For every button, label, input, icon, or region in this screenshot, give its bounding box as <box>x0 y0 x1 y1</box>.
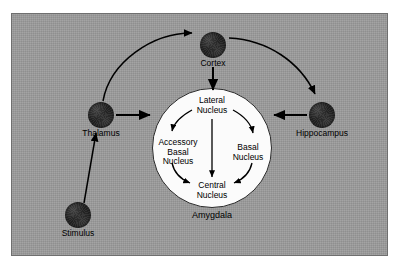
label-basal-nucleus: Basal Nucleus <box>233 143 264 162</box>
label-accessory-basal-nucleus: Accessory Basal Nucleus <box>158 138 197 167</box>
basal-nucleus-line-2: Nucleus <box>233 153 264 163</box>
node-label-cortex: Cortex <box>200 58 225 68</box>
node-label-stimulus: Stimulus <box>62 228 95 238</box>
diagram-canvas: Stimulus Thalamus Cortex Hippocampus Lat… <box>0 0 402 276</box>
label-central-nucleus: Central Nucleus <box>197 181 228 200</box>
node-cortex[interactable] <box>200 32 226 58</box>
accessory-basal-line-3: Nucleus <box>158 157 197 167</box>
central-nucleus-line-2: Nucleus <box>197 191 228 201</box>
node-stimulus[interactable] <box>65 202 91 228</box>
node-thalamus[interactable] <box>88 102 114 128</box>
label-lateral-nucleus: Lateral Nucleus <box>197 96 228 115</box>
node-hippocampus[interactable] <box>309 102 335 128</box>
node-label-hippocampus: Hippocampus <box>296 128 348 138</box>
node-label-thalamus: Thalamus <box>82 128 119 138</box>
lateral-nucleus-line-2: Nucleus <box>197 106 228 116</box>
label-amygdala: Amygdala <box>192 210 232 220</box>
